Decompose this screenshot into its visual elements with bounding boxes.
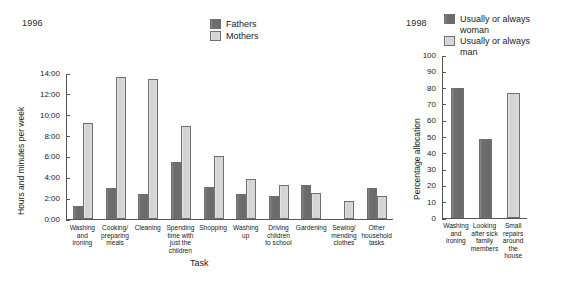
bar-dark[interactable]: [204, 187, 214, 219]
bar-dark[interactable]: [301, 185, 311, 219]
legend-label-fathers: Fathers: [226, 19, 257, 30]
category-label: Washingup: [229, 224, 262, 254]
category-label: Cooking/preparingmeals: [99, 224, 132, 254]
left-chart-bars: [67, 74, 393, 219]
figure-canvas: 1996 Hours and minutes per week Task Fat…: [0, 0, 573, 291]
y-tick-label: 30: [427, 164, 436, 175]
bar-group[interactable]: [67, 74, 100, 219]
y-tick-label: 80: [427, 83, 436, 94]
bar-light[interactable]: [116, 77, 126, 219]
legend-label-mothers: Mothers: [226, 31, 259, 42]
category-label: Cleaning: [131, 224, 164, 254]
y-tick-mark: [442, 219, 446, 220]
bar-group[interactable]: [295, 74, 328, 219]
left-chart-x-axis: [66, 219, 393, 220]
y-tick-label: 12:00: [40, 89, 60, 100]
category-label: Drivingchildrento school: [262, 224, 295, 254]
bar-group[interactable]: [230, 74, 263, 219]
y-tick-label: 50: [427, 132, 436, 143]
bar-dark[interactable]: [367, 188, 377, 219]
y-tick-label: 10: [427, 197, 436, 208]
legend-swatch-fathers-icon: [210, 19, 221, 29]
category-label: Spendingtime withjust thechildren: [164, 224, 197, 254]
bar-group[interactable]: [499, 56, 527, 218]
y-tick-label: 10:00: [40, 110, 60, 121]
legend-swatch-woman-icon: [444, 14, 455, 24]
bar-dark[interactable]: [73, 206, 83, 219]
y-tick-label: 8:00: [44, 131, 60, 142]
bar-group[interactable]: [165, 74, 198, 219]
category-label: Washingandironing: [442, 222, 470, 260]
legend-label-usually-man: Usually or always man: [460, 36, 530, 57]
legend-swatch-mothers-icon: [210, 31, 221, 41]
y-tick-mark: [66, 220, 70, 221]
legend-swatch-man-icon: [444, 36, 455, 46]
bar-dark[interactable]: [171, 162, 181, 219]
y-tick-label: 0:00: [44, 214, 60, 225]
bar-dark[interactable]: [479, 139, 492, 218]
bar-group[interactable]: [263, 74, 296, 219]
bar-light[interactable]: [344, 201, 354, 219]
category-label: Gardening: [295, 224, 328, 254]
right-chart-bars: [443, 56, 527, 218]
bar-light[interactable]: [507, 93, 520, 218]
y-tick-label: 4:00: [44, 172, 60, 183]
legend-item-usually-man: Usually or always man: [444, 36, 530, 57]
bar-light[interactable]: [377, 196, 387, 219]
bar-light[interactable]: [181, 126, 191, 219]
bar-light[interactable]: [83, 123, 93, 219]
left-chart-x-axis-label: Task: [190, 258, 209, 268]
right-chart-legend: Usually or always woman Usually or alway…: [444, 14, 530, 58]
right-chart-panel: 1998 Percentage allocation Usually or al…: [400, 0, 573, 291]
bar-group[interactable]: [132, 74, 165, 219]
legend-item-fathers: Fathers: [210, 19, 259, 30]
bar-light[interactable]: [246, 179, 256, 219]
right-chart-x-axis: [442, 218, 527, 219]
left-chart-legend: Fathers Mothers: [210, 19, 259, 42]
y-tick-label: 40: [427, 148, 436, 159]
y-tick-label: 90: [427, 66, 436, 77]
category-label: Otherhouseholdtasks: [360, 224, 393, 254]
bar-group[interactable]: [197, 74, 230, 219]
bar-group[interactable]: [100, 74, 133, 219]
category-label: Shopping: [197, 224, 230, 254]
category-label: Small repairsaround thehouse: [499, 222, 527, 260]
category-label: Lookingafter sickfamilymembers: [470, 222, 499, 260]
left-chart-y-axis-label: Hours and minutes per week: [16, 107, 26, 215]
y-tick-label: 6:00: [44, 151, 60, 162]
left-chart-plot-area: 14:0012:0010:008:006:004:002:000:00: [66, 74, 393, 220]
bar-dark[interactable]: [269, 196, 279, 219]
bar-light[interactable]: [214, 156, 224, 219]
bar-dark[interactable]: [138, 194, 148, 219]
bar-light[interactable]: [148, 79, 158, 219]
bar-group[interactable]: [328, 74, 361, 219]
category-label: Washingandironing: [66, 224, 99, 254]
right-chart-plot-area: 1009080706050403020100: [442, 56, 527, 219]
y-tick-label: 100: [423, 50, 436, 61]
left-chart-year-label: 1996: [22, 18, 43, 28]
y-tick-label: 70: [427, 99, 436, 110]
bar-light[interactable]: [279, 185, 289, 219]
y-tick-label: 2:00: [44, 193, 60, 204]
bar-dark[interactable]: [451, 88, 464, 218]
bar-dark[interactable]: [106, 188, 116, 219]
y-tick-label: 14:00: [40, 68, 60, 79]
bar-group[interactable]: [471, 56, 499, 218]
bar-light[interactable]: [311, 193, 321, 219]
right-chart-year-label: 1998: [406, 18, 427, 28]
right-chart-y-axis-label: Percentage allocation: [412, 118, 422, 200]
y-tick-label: 0: [432, 213, 436, 224]
legend-item-mothers: Mothers: [210, 31, 259, 42]
y-tick-label: 20: [427, 180, 436, 191]
bar-group[interactable]: [443, 56, 471, 218]
category-label: Sewing/mendingclothes: [328, 224, 361, 254]
bar-dark[interactable]: [236, 194, 246, 219]
left-chart-panel: 1996 Hours and minutes per week Task Fat…: [0, 0, 400, 291]
bar-group[interactable]: [360, 74, 393, 219]
y-tick-label: 60: [427, 115, 436, 126]
right-chart-category-labels: WashingandironingLookingafter sickfamily…: [442, 222, 527, 260]
legend-item-usually-woman: Usually or always woman: [444, 14, 530, 35]
legend-label-usually-woman: Usually or always woman: [460, 14, 530, 35]
left-chart-category-labels: WashingandironingCooking/preparingmealsC…: [66, 224, 393, 254]
